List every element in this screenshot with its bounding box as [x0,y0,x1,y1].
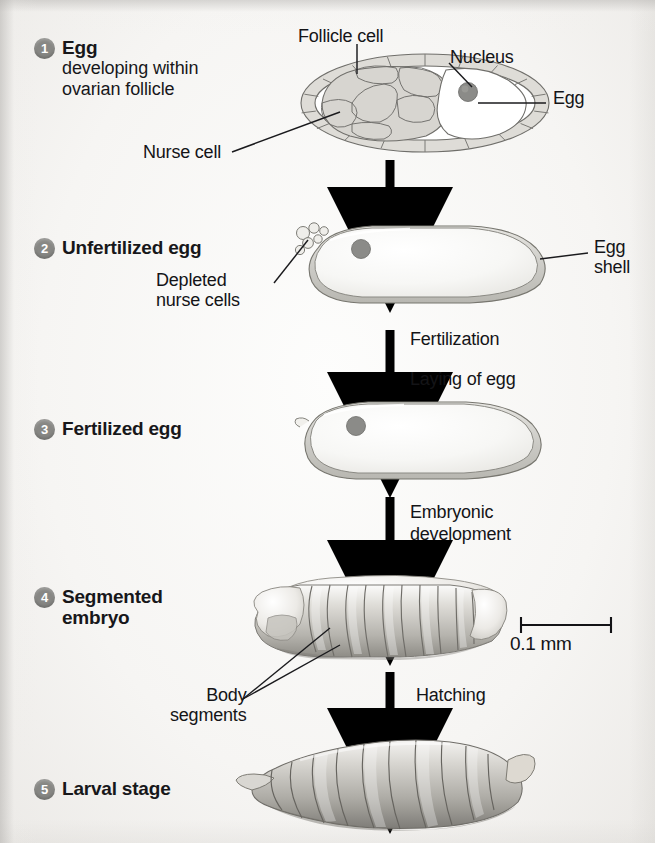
transition-laying-of-egg: Laying of egg [410,369,516,391]
stage-1-badge: 1 [34,38,55,59]
stage-1-label[interactable]: 1 Egg developing within ovarian follicle [34,37,198,99]
scale-bar-label: 0.1 mm [510,633,572,655]
stage-2-label[interactable]: 2 Unfertilized egg [34,237,201,259]
callout-follicle-cell: Follicle cell [298,27,383,47]
callout-nucleus: Nucleus [450,48,514,68]
stage-1-illustration [301,54,549,152]
stage-5-label[interactable]: 5 Larval stage [34,778,171,800]
callout-body-segments: Body segments [170,686,246,726]
transition-embryonic-development: Embryonic development [410,502,511,546]
callout-egg: Egg [553,89,584,109]
stage-5-title: Larval stage [62,778,171,799]
stage-3-badge: 3 [34,419,55,440]
callout-egg-shell: Egg shell [594,238,630,278]
stage-4-illustration [254,575,507,660]
stage-4-title: Segmented embryo [62,586,163,629]
scale-bar [521,617,611,633]
stage-3-label[interactable]: 3 Fertilized egg [34,418,182,440]
transition-hatching: Hatching [416,685,485,707]
callout-nurse-cell: Nurse cell [143,143,221,163]
body-segments-leader-lines [243,628,340,699]
stage-4-label[interactable]: 4 Segmented embryo [34,586,163,629]
stage-1-subtitle: developing within ovarian follicle [62,58,198,99]
stage-4-badge: 4 [34,587,55,608]
transition-fertilization: Fertilization [410,329,499,351]
stage-5-illustration [236,740,535,831]
stage-1-title: Egg [62,37,198,58]
callout-depleted-nurse-cells: Depleted nurse cells [156,271,240,311]
stage-2-title: Unfertilized egg [62,237,201,258]
stage-2-illustration [295,223,545,303]
stage-3-title: Fertilized egg [62,418,182,439]
stage-2-badge: 2 [34,238,55,259]
stage-5-badge: 5 [34,779,55,800]
stage-3-illustration [295,402,541,479]
stage-2-leader-lines [274,240,588,283]
developmental-stages-figure: 1 Egg developing within ovarian follicle… [0,0,655,843]
